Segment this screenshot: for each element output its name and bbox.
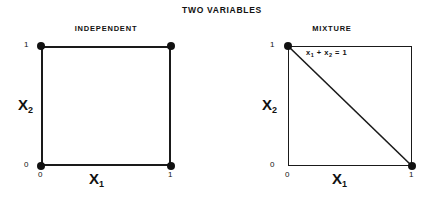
y-tick-1-mixture: 1 — [270, 40, 274, 49]
plot-box-independent — [41, 46, 171, 166]
y-axis-label-sub-independent: 2 — [28, 105, 33, 115]
constraint-eq-tail: = 1 — [333, 48, 348, 57]
y-axis-label-text-independent: X — [18, 96, 28, 113]
x-axis-label-sub-mixture: 1 — [342, 179, 347, 189]
x-axis-label-text-independent: X — [89, 170, 99, 187]
y-axis-label-sub-mixture: 2 — [272, 105, 277, 115]
constraint-equation-label: x1 + x2 = 1 — [306, 48, 347, 57]
y-tick-0-mixture: 0 — [270, 160, 274, 169]
design-point-0-0-independent — [37, 162, 45, 170]
x-tick-1-mixture: 1 — [409, 170, 413, 179]
y-axis-label-independent: X2 — [18, 96, 33, 113]
x-axis-label-mixture: X1 — [332, 170, 347, 187]
panel-mixture: MIXTURE x1 + x2 = 1 X2 X1 1 0 0 1 — [222, 0, 444, 203]
y-tick-1-independent: 1 — [24, 40, 28, 49]
panel-independent: INDEPENDENT X2 X1 1 0 0 1 — [0, 0, 222, 203]
constraint-eq-lead: x — [306, 48, 311, 57]
constraint-eq-plus: + x — [314, 48, 329, 57]
design-point-1-0-mixture — [408, 162, 416, 170]
design-point-0-1-mixture — [284, 42, 292, 50]
plot-box-mixture — [288, 46, 412, 166]
constraint-eq-sub2: 2 — [329, 52, 333, 58]
panel-title-independent: INDEPENDENT — [36, 24, 176, 33]
design-point-1-0-independent — [167, 162, 175, 170]
x-axis-label-sub-independent: 1 — [99, 179, 104, 189]
design-point-0-1-independent — [37, 42, 45, 50]
figure-two-variables: TWO VARIABLES INDEPENDENT X2 X1 1 0 0 1 … — [0, 0, 444, 203]
panel-title-mixture: MIXTURE — [262, 24, 402, 33]
y-axis-label-mixture: X2 — [262, 96, 277, 113]
y-tick-0-independent: 0 — [24, 160, 28, 169]
x-axis-label-text-mixture: X — [332, 170, 342, 187]
design-point-1-1-independent — [167, 42, 175, 50]
x-tick-0-mixture: 0 — [285, 170, 289, 179]
x-axis-label-independent: X1 — [89, 170, 104, 187]
constraint-eq-sub1: 1 — [311, 52, 315, 58]
x-tick-1-independent: 1 — [168, 170, 172, 179]
x-tick-0-independent: 0 — [38, 170, 42, 179]
y-axis-label-text-mixture: X — [262, 96, 272, 113]
